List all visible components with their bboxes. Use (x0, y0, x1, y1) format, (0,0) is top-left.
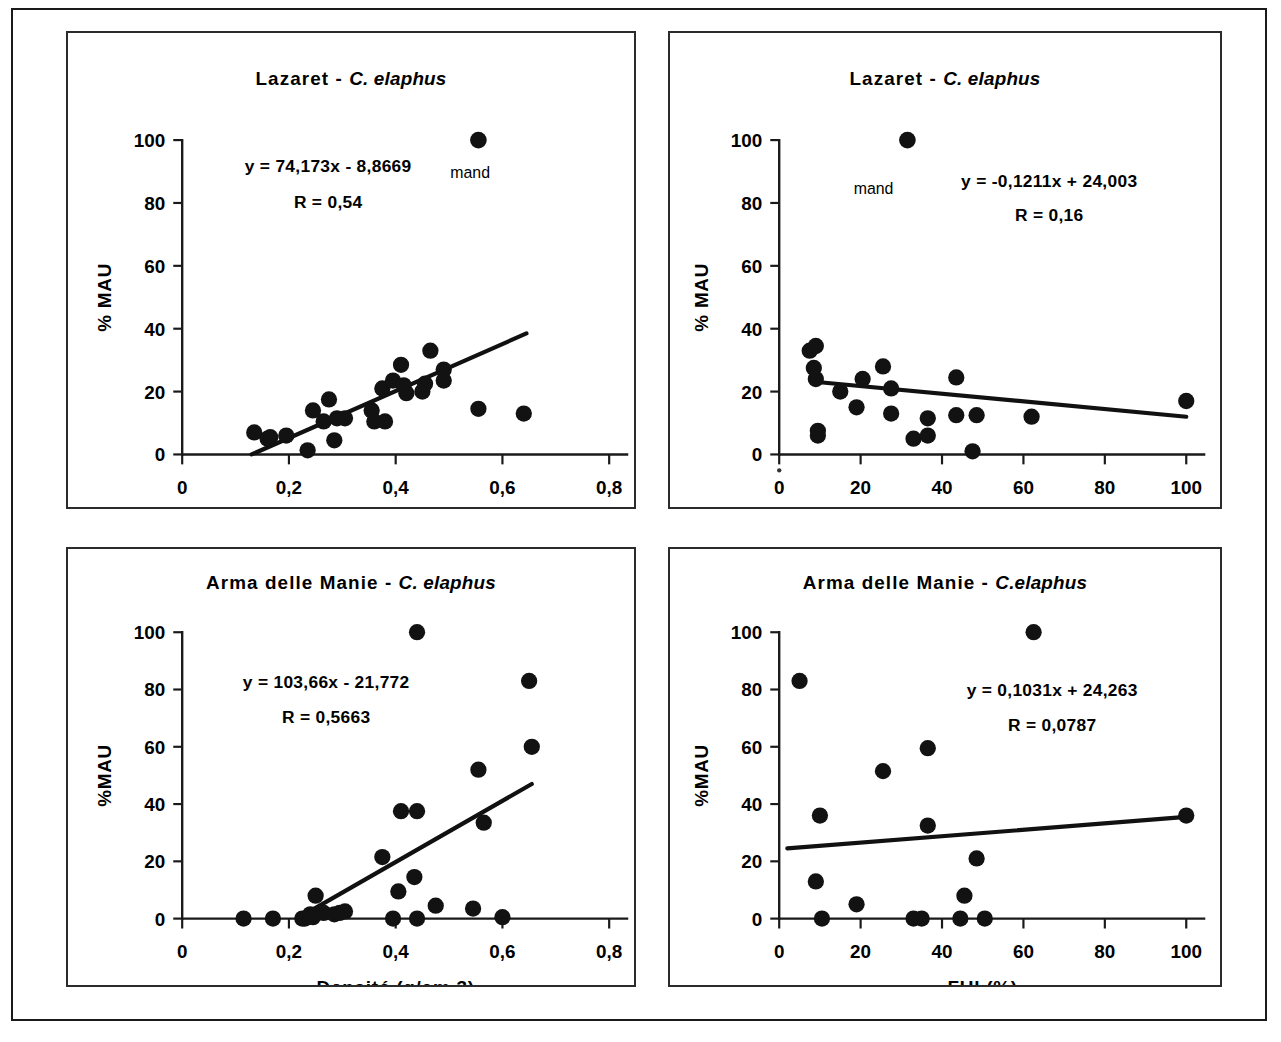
y-axis-label: % MAU (94, 263, 115, 332)
y-axis-tick-label: 0 (155, 909, 165, 930)
panel-title-location: Arma delle Manie - (803, 572, 996, 593)
x-axis-tick-label: 0 (177, 477, 187, 498)
y-axis-tick-label: 60 (144, 256, 165, 277)
data-point (964, 443, 980, 459)
x-axis-tick-label: 0 (177, 941, 187, 962)
data-point (385, 910, 401, 926)
y-axis-tick-label: 40 (144, 794, 165, 815)
x-axis-tick-label: 0,6 (489, 477, 515, 498)
panel-arma-fui: Arma delle Manie - C.elaphus020406080100… (668, 547, 1222, 987)
panel-title-location: Lazaret - (849, 68, 943, 89)
data-point (1023, 409, 1039, 425)
data-point (417, 376, 433, 392)
data-point (409, 624, 425, 640)
y-axis-tick-label: 60 (144, 737, 165, 758)
data-point (377, 413, 393, 429)
x-axis-tick-label: 60 (1013, 941, 1034, 962)
data-point (390, 883, 406, 899)
x-axis-tick-label: 100 (1171, 941, 1202, 962)
data-point (494, 909, 510, 925)
data-point (810, 427, 826, 443)
panel-title-location: Lazaret - (255, 68, 349, 89)
y-axis-tick-label: 20 (741, 382, 762, 403)
y-axis-tick-label: 80 (741, 193, 762, 214)
panel-lazaret-fui: Lazaret - C. elaphus020406080100% MAU020… (668, 31, 1222, 509)
scatter-plot-lazaret-fui: Lazaret - C. elaphus020406080100% MAU020… (670, 33, 1220, 507)
data-point-mandible (899, 132, 916, 149)
data-point (409, 803, 425, 819)
data-point (920, 817, 936, 833)
x-axis-label: FUI (%) (947, 977, 1017, 985)
panel-title-species: C. elaphus (943, 68, 1040, 89)
scan-artifact-dot (777, 468, 781, 472)
regression-equation: y = -0,1211x + 24,003 (961, 171, 1137, 191)
data-point (808, 873, 824, 889)
data-point (855, 371, 871, 387)
data-point (307, 888, 323, 904)
x-axis-tick-label: 0,6 (489, 941, 515, 962)
data-point (875, 763, 891, 779)
data-point (812, 807, 828, 823)
data-point (278, 427, 294, 443)
x-axis-tick-label: 0,2 (276, 477, 302, 498)
data-point (398, 385, 414, 401)
y-axis-tick-label: 20 (144, 851, 165, 872)
y-axis-tick-label: 20 (144, 382, 165, 403)
y-axis-tick-label: 80 (741, 679, 762, 700)
x-axis-tick-label: 0,8 (596, 477, 622, 498)
x-axis-tick-label: 20 (850, 941, 871, 962)
data-point (848, 896, 864, 912)
y-axis-tick-label: 40 (144, 319, 165, 340)
data-point (832, 383, 848, 399)
x-axis-tick-label: 0,8 (596, 941, 622, 962)
x-axis-label-text: FUI (%) (947, 977, 1017, 985)
scatter-plot-arma-fui: Arma delle Manie - C.elaphus020406080100… (670, 549, 1220, 985)
x-axis-tick-label: 0,4 (383, 941, 410, 962)
x-axis-tick-label: 0,2 (276, 941, 302, 962)
x-axis-label-text: Densité (g/cm 3) (317, 977, 475, 985)
y-axis-tick-label: 100 (731, 622, 762, 643)
panel-arma-densite: Arma delle Manie - C. elaphus02040608010… (66, 547, 636, 987)
scatter-plot-lazaret-densite: Lazaret - C. elaphus020406080100% MAU00,… (68, 33, 634, 507)
data-point (948, 369, 964, 385)
panel-title-species: C.elaphus (995, 572, 1087, 593)
data-point (299, 442, 315, 458)
regression-equation: y = 74,173x - 8,8669 (245, 156, 412, 176)
data-point (262, 429, 278, 445)
data-point (920, 740, 936, 756)
data-point (470, 401, 486, 417)
y-axis-label: % MAU (691, 263, 712, 332)
data-point (1178, 393, 1194, 409)
data-point (977, 910, 993, 926)
data-point (791, 673, 807, 689)
x-axis-tick-label: 60 (1013, 477, 1034, 498)
data-point (905, 431, 921, 447)
data-point (875, 358, 891, 374)
regression-equation: y = 0,1031x + 24,263 (967, 680, 1138, 700)
regression-r-value: R = 0,16 (1015, 205, 1084, 225)
data-point (808, 338, 824, 354)
data-point (428, 898, 444, 914)
data-point (326, 432, 342, 448)
data-point (422, 343, 438, 359)
data-point (968, 850, 984, 866)
regression-equation: y = 103,66x - 21,772 (243, 672, 410, 692)
data-point (848, 399, 864, 415)
data-point (393, 357, 409, 373)
data-point (321, 391, 337, 407)
x-axis-tick-label: 80 (1094, 477, 1115, 498)
x-axis-tick-label: 40 (932, 477, 953, 498)
x-axis-tick-label: 0,4 (383, 477, 410, 498)
figure-root: Lazaret - C. elaphus020406080100% MAU00,… (0, 0, 1281, 1042)
regression-r-value: R = 0,5663 (282, 707, 370, 727)
panel-title: Lazaret - C. elaphus (255, 68, 446, 89)
annotation-mand: mand (854, 180, 894, 197)
data-point-mandible (470, 132, 487, 149)
data-point (524, 739, 540, 755)
panel-title-species: C. elaphus (399, 572, 496, 593)
data-point (436, 361, 452, 377)
data-point (235, 910, 251, 926)
panel-title: Arma delle Manie - C.elaphus (803, 572, 1087, 593)
y-axis-tick-label: 40 (741, 794, 762, 815)
data-point (920, 410, 936, 426)
